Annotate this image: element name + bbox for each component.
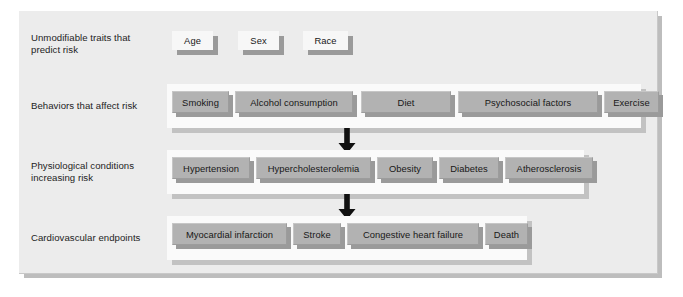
item-congestive-heart-failure[interactable]: Congestive heart failure xyxy=(347,223,479,245)
item-alcohol-consumption[interactable]: Alcohol consumption xyxy=(235,91,353,113)
row-label-physiological-conditions: Physiological conditions increasing risk xyxy=(31,160,171,185)
row-label-behaviors: Behaviors that affect risk xyxy=(31,100,171,112)
item-diet[interactable]: Diet xyxy=(361,91,451,113)
item-exercise[interactable]: Exercise xyxy=(604,91,659,113)
item-death[interactable]: Death xyxy=(485,223,528,245)
item-diabetes[interactable]: Diabetes xyxy=(439,157,499,179)
item-obesity[interactable]: Obesity xyxy=(377,157,433,179)
row-label-cardiovascular-endpoints: Cardiovascular endpoints xyxy=(31,232,171,244)
item-sex[interactable]: Sex xyxy=(238,31,279,50)
item-atherosclerosis[interactable]: Atherosclerosis xyxy=(505,157,593,179)
row-label-unmodifiable-traits: Unmodifiable traits that predict risk xyxy=(31,32,171,57)
item-hypercholesterolemia[interactable]: Hypercholesterolemia xyxy=(256,157,371,179)
risk-factor-diagram: Unmodifiable traits that predict risk Ag… xyxy=(0,0,683,297)
item-hypertension[interactable]: Hypertension xyxy=(172,157,250,179)
item-race[interactable]: Race xyxy=(303,31,348,50)
item-stroke[interactable]: Stroke xyxy=(293,223,341,245)
item-psychosocial-factors[interactable]: Psychosocial factors xyxy=(458,91,598,113)
item-age[interactable]: Age xyxy=(172,31,213,50)
item-smoking[interactable]: Smoking xyxy=(172,91,229,113)
item-myocardial-infarction[interactable]: Myocardial infarction xyxy=(172,223,287,245)
